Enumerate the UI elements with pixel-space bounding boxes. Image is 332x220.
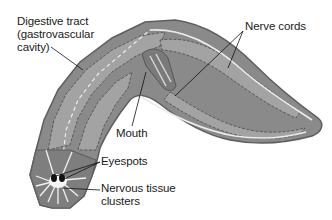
label-nerve-cords: Nerve cords [245, 20, 306, 33]
eyespot-left [51, 174, 57, 182]
label-nervous-tissue: Nervous tissue clusters [101, 182, 176, 208]
label-mouth: Mouth [116, 127, 147, 140]
label-digestive-tract: Digestive tract (gastrovascular cavity) [17, 15, 94, 54]
eyespot-right [59, 174, 65, 182]
label-eyespots: Eyespots [101, 155, 148, 168]
flatworm-diagram: Digestive tract (gastrovascular cavity) … [0, 0, 332, 220]
